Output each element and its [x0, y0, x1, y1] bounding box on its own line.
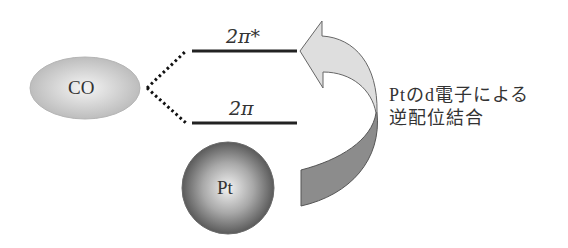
- back-donation-arrow-head: [300, 21, 377, 113]
- orbital-label-2pi: 2π: [229, 97, 254, 119]
- annotation-line-1: Ptのd電子による: [389, 84, 529, 107]
- annotation-line-2: 逆配位結合: [389, 107, 529, 130]
- dotted-connector-lower: [147, 88, 186, 123]
- orbital-label-2pi-star: 2π*: [226, 25, 260, 47]
- pt-label: Pt: [217, 177, 233, 199]
- co-label: CO: [68, 77, 94, 99]
- annotation-text: Ptのd電子による 逆配位結合: [389, 84, 529, 130]
- dotted-connector-upper: [147, 51, 186, 88]
- back-donation-arrow-tail: [301, 112, 378, 206]
